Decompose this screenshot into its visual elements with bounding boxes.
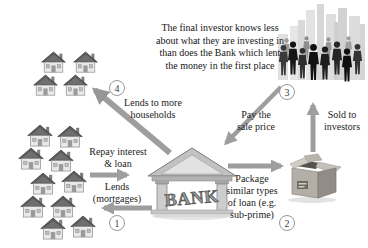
households-cluster-small	[28, 48, 100, 100]
house-icon	[58, 126, 83, 147]
step-circle-3: 3	[279, 84, 295, 100]
households-cluster-large	[12, 122, 96, 240]
house-icon	[51, 196, 76, 217]
label-repay-interest: Repay interest & loan	[89, 146, 146, 170]
label-sold-to-investors: Sold to investors	[324, 109, 360, 133]
bank-sign: BANK	[164, 186, 220, 211]
house-icon	[71, 216, 96, 237]
step-circle-1: 1	[109, 215, 125, 231]
investor-note: The final investor knows less about what…	[156, 22, 284, 72]
step-circle-4: 4	[109, 80, 125, 96]
bank-building-icon: BANK	[146, 146, 238, 222]
house-icon	[19, 148, 44, 169]
investor-crowd-icon	[276, 4, 366, 92]
house-icon	[28, 125, 53, 146]
subprime-flow-diagram: BANK	[0, 0, 368, 248]
house-icon	[34, 75, 58, 95]
house-icon	[31, 173, 56, 194]
house-icon	[62, 171, 87, 192]
house-icon	[42, 52, 66, 72]
label-pay-sale-price: Pay the sale price	[237, 109, 275, 133]
house-icon	[21, 196, 46, 217]
label-lends-mortgages: Lends (mortgages)	[93, 181, 141, 205]
cardboard-box-icon	[284, 146, 344, 204]
house-icon	[41, 218, 66, 239]
step-circle-2: 2	[279, 215, 295, 231]
house-icon	[64, 75, 88, 95]
label-package-loans: Package similar types of loan (e.g. sub-…	[226, 173, 277, 221]
house-icon	[49, 150, 74, 171]
label-lends-more-households: Lends to more households	[124, 97, 182, 121]
house-icon	[74, 52, 98, 72]
